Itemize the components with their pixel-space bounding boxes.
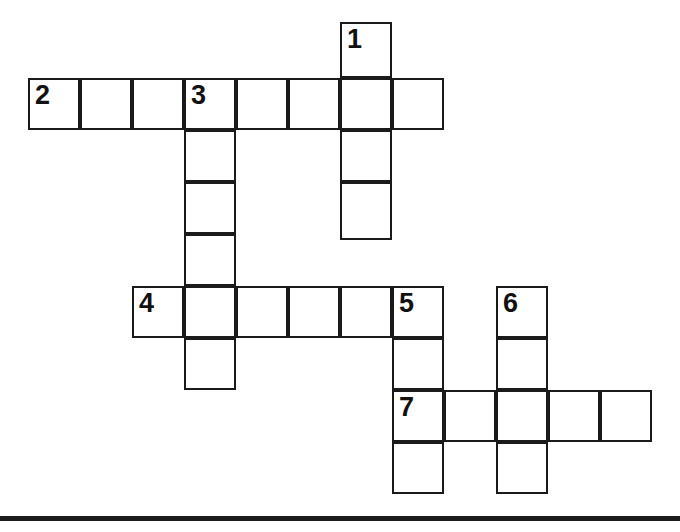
cell-number: 1 <box>347 25 362 53</box>
crossword-cell[interactable] <box>184 286 236 338</box>
cell-number: 7 <box>399 393 414 421</box>
crossword-cell[interactable] <box>548 390 600 442</box>
crossword-cell-numbered[interactable]: 6 <box>496 286 548 338</box>
crossword-cell-numbered[interactable]: 1 <box>340 22 392 78</box>
crossword-cell[interactable] <box>288 286 340 338</box>
crossword-cell[interactable] <box>496 390 548 442</box>
crossword-cell[interactable] <box>132 78 184 130</box>
crossword-cell[interactable] <box>236 286 288 338</box>
cell-number: 5 <box>399 289 414 317</box>
crossword-cell[interactable] <box>496 442 548 494</box>
crossword-cell[interactable] <box>392 442 444 494</box>
crossword-cell-numbered[interactable]: 2 <box>28 78 80 130</box>
crossword-grid: 1234567 <box>0 0 680 532</box>
crossword-cell[interactable] <box>288 78 340 130</box>
crossword-cell[interactable] <box>392 338 444 390</box>
crossword-cell[interactable] <box>600 390 652 442</box>
crossword-cell[interactable] <box>184 130 236 182</box>
cell-number: 6 <box>503 289 518 317</box>
crossword-cell-numbered[interactable]: 3 <box>184 78 236 130</box>
cell-number: 4 <box>139 289 154 317</box>
crossword-cell[interactable] <box>340 286 392 338</box>
crossword-cell-numbered[interactable]: 5 <box>392 286 444 338</box>
crossword-cell[interactable] <box>444 390 496 442</box>
crossword-cell[interactable] <box>80 78 132 130</box>
crossword-cell[interactable] <box>340 182 392 240</box>
crossword-cell[interactable] <box>496 338 548 390</box>
crossword-cell-numbered[interactable]: 4 <box>132 286 184 338</box>
cell-number: 3 <box>191 81 206 109</box>
crossword-cell[interactable] <box>236 78 288 130</box>
crossword-cell[interactable] <box>340 130 392 182</box>
crossword-cell[interactable] <box>392 78 444 130</box>
crossword-cell-numbered[interactable]: 7 <box>392 390 444 442</box>
crossword-cell[interactable] <box>340 78 392 130</box>
crossword-cell[interactable] <box>184 338 236 390</box>
crossword-cell[interactable] <box>184 234 236 286</box>
crossword-cell[interactable] <box>184 182 236 234</box>
cell-number: 2 <box>35 81 50 109</box>
page-divider-rule <box>0 516 680 521</box>
